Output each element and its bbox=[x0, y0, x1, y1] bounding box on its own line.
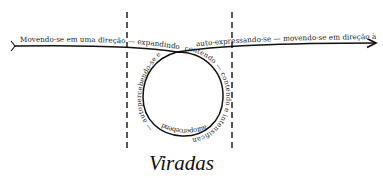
diagram-title: Viradas bbox=[149, 151, 214, 175]
turns-diagram: Movendo-se em uma direção — expandindo —… bbox=[0, 0, 383, 178]
loop-right-label: contendo — contendo e intensificando — bbox=[0, 0, 232, 145]
loop-left-label: — autopercebendo-se e autoconhecendo-se bbox=[0, 0, 164, 133]
turn-loop bbox=[143, 52, 223, 136]
loop-bottom-label: autopercebendo-se bbox=[0, 1, 208, 135]
left-path-label: Movendo-se em uma direção — expandindo —… bbox=[0, 0, 181, 51]
arrow-tail-icon bbox=[11, 41, 15, 51]
